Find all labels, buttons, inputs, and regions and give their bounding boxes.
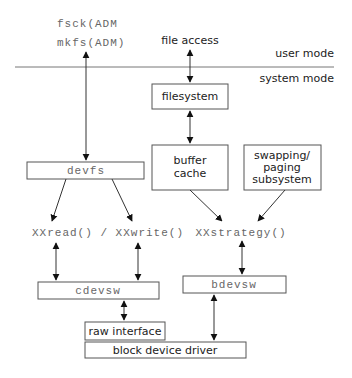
svg-text:bdevsw: bdevsw [211,279,257,291]
system-mode-label: system mode [260,72,335,85]
filesystem-box: filesystem [152,84,228,109]
buffer-to-strategy-arrow [190,190,222,221]
read-write-label: XXread() / XXwrite() [32,227,184,239]
file-access-label: file access [161,34,219,47]
devfs-to-read-arrow [52,179,66,221]
kernel-io-diagram: user mode system mode fsck(ADM mkfs(ADM)… [0,0,352,378]
strategy-label: XXstrategy() [195,227,286,239]
svg-text:cdevsw: cdevsw [75,285,121,297]
bdevsw-box: bdevsw [183,276,286,293]
user-mode-label: user mode [275,47,334,60]
svg-text:block device driver: block device driver [113,344,218,357]
fsck-command-label: fsck(ADM [57,18,118,30]
svg-text:filesystem: filesystem [162,90,219,103]
svg-text:cache: cache [174,167,207,180]
devfs-box: devfs [27,162,144,179]
swapping-to-strategy-arrow [258,190,285,221]
swapping-paging-box: swapping/ paging subsystem [244,145,321,190]
block-device-driver-box: block device driver [85,342,246,358]
svg-text:raw interface: raw interface [89,325,162,338]
devfs-to-write-arrow [112,179,132,221]
svg-text:subsystem: subsystem [252,173,311,186]
buffer-cache-box: buffer cache [152,145,228,190]
cdevsw-box: cdevsw [38,282,159,299]
mkfs-command-label: mkfs(ADM) [57,37,125,49]
raw-interface-box: raw interface [85,322,165,340]
svg-text:buffer: buffer [174,154,207,167]
svg-text:devfs: devfs [67,165,105,177]
